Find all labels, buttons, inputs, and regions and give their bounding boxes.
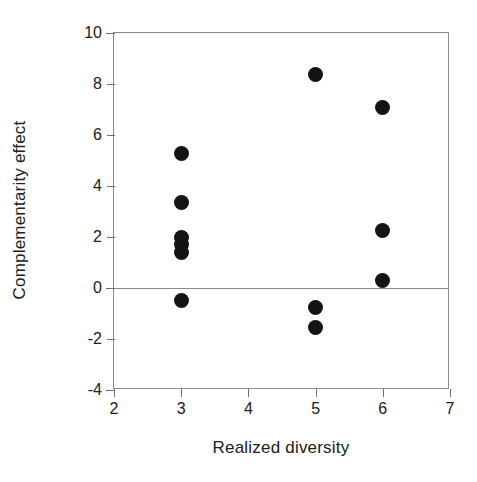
data-point: [375, 273, 390, 288]
x-tick-mark: [316, 389, 317, 397]
data-point: [174, 245, 189, 260]
y-tick-label: 4: [93, 177, 102, 195]
data-point: [375, 223, 390, 238]
data-point: [375, 100, 390, 115]
x-tick-mark: [248, 389, 249, 397]
y-axis-title: Complementarity effect: [10, 32, 44, 388]
plot-frame: -4-20246810 234567: [113, 32, 449, 389]
y-tick-mark: [106, 33, 115, 34]
data-point: [308, 300, 323, 315]
x-tick-label: 5: [311, 400, 320, 418]
y-tick-label: 10: [84, 24, 102, 42]
x-tick-label: 3: [177, 400, 186, 418]
y-tick-label: 6: [93, 126, 102, 144]
plot-area: [114, 33, 448, 388]
y-tick-label: 0: [93, 279, 102, 297]
y-tick-mark: [107, 135, 115, 136]
data-point: [308, 67, 323, 82]
zero-reference-line: [114, 288, 448, 289]
x-axis-title: Realized diversity: [113, 438, 449, 458]
data-point: [174, 293, 189, 308]
x-tick-mark: [181, 389, 182, 397]
y-tick-mark: [106, 288, 115, 289]
x-tick-label: 6: [378, 400, 387, 418]
y-tick-mark: [107, 339, 115, 340]
y-tick-label: -4: [88, 381, 102, 399]
x-tick-label: 4: [244, 400, 253, 418]
y-tick-mark: [106, 390, 115, 391]
x-tick-label: 7: [446, 400, 455, 418]
y-tick-mark: [107, 237, 115, 238]
data-point: [174, 195, 189, 210]
data-point: [174, 146, 189, 161]
y-tick-mark: [107, 186, 115, 187]
x-tick-label: 2: [110, 400, 119, 418]
y-tick-label: 2: [93, 228, 102, 246]
y-tick-label: 8: [93, 75, 102, 93]
x-tick-mark: [450, 389, 451, 397]
y-tick-mark: [107, 84, 115, 85]
y-tick-label: -2: [88, 330, 102, 348]
scatter-plot-figure: Complementarity effect -4-20246810 23456…: [0, 0, 477, 482]
data-point: [308, 320, 323, 335]
x-tick-mark: [383, 389, 384, 397]
